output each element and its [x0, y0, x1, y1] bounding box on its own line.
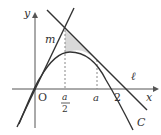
- tick-a-half-den: 2: [62, 104, 68, 114]
- origin-label: O: [38, 91, 47, 104]
- curve-c-label: C: [137, 116, 146, 129]
- tick-2: 2: [114, 91, 121, 104]
- tick-a-half-num: a: [62, 92, 67, 102]
- tangent-m-label: m: [45, 33, 55, 46]
- tangent-l-label: ℓ: [131, 70, 136, 83]
- y-axis-label: y: [23, 7, 31, 20]
- tick-a: a: [93, 92, 99, 103]
- diagram: y x O m ℓ C a 2 a 2: [0, 0, 161, 135]
- y-axis-arrow: [32, 12, 38, 18]
- x-axis-label: x: [146, 91, 153, 104]
- x-axis-arrow: [153, 86, 159, 92]
